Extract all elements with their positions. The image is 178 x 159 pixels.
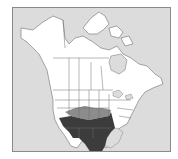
- north-america-map: [13, 8, 171, 152]
- map-frame: [12, 7, 171, 152]
